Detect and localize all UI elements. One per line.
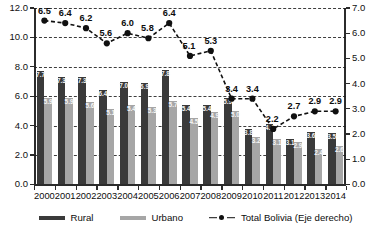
right-axis-tick (346, 33, 350, 34)
legend-swatch-urbano-icon (120, 216, 146, 220)
line-point-label: 5.1 (183, 42, 196, 51)
left-axis-tick-label: 12.0 (10, 3, 29, 13)
legend-label-urbano: Urbano (152, 213, 183, 223)
x-axis-label: 2010 (242, 192, 263, 201)
x-axis-label: 2013 (304, 192, 325, 201)
legend-swatch-line-icon (209, 215, 235, 221)
right-axis-tick-label: 0.0 (352, 179, 365, 189)
x-axis-label: 2012 (284, 192, 305, 201)
line-point-label: 6.0 (121, 19, 134, 28)
right-axis-tick (346, 159, 350, 160)
x-axis-tick (263, 186, 264, 190)
x-axis-label: 2011 (263, 192, 283, 201)
x-axis-tick (96, 186, 97, 190)
x-axis-tick (221, 186, 222, 190)
legend-item-urbano: Urbano (120, 213, 183, 223)
x-axis-label: 2006 (159, 192, 180, 201)
legend-item-rural: Rural (39, 213, 94, 223)
line-point-label: 6.4 (163, 9, 176, 18)
right-axis-tick-label: 5.0 (352, 53, 365, 63)
left-axis-tick-label: 8.0 (15, 62, 28, 72)
line-point-label: 3.4 (225, 85, 238, 94)
x-axis-tick (55, 186, 56, 190)
x-axis-label: 2002 (76, 192, 97, 201)
x-axis-tick (200, 186, 201, 190)
left-axis-tick-label: 0.0 (15, 179, 28, 189)
x-axis-label: 2005 (138, 192, 159, 201)
line-point-label: 6.5 (38, 6, 51, 15)
x-axis-labels: 2000200120022003200420052006200720082009… (34, 192, 346, 208)
line-point-label: 5.8 (141, 24, 154, 33)
left-axis-tick-label: 4.0 (15, 121, 28, 131)
x-axis-tick (34, 186, 35, 190)
x-axis-label: 2008 (200, 192, 221, 201)
line-point-label: 3.4 (246, 85, 259, 94)
right-axis-tick-label: 4.0 (352, 79, 365, 89)
x-axis-label: 2001 (55, 192, 76, 201)
left-axis-tick-label: 2.0 (15, 150, 28, 160)
right-axis-tick-label: 6.0 (352, 28, 365, 38)
x-axis-tick (138, 186, 139, 190)
x-axis-label: 2009 (221, 192, 242, 201)
legend-item-total-bolivia: Total Bolivia (Eje derecho) (209, 213, 352, 223)
legend-label-rural: Rural (71, 213, 94, 223)
right-axis-tick-label: 2.0 (352, 129, 365, 139)
x-axis-tick (346, 186, 347, 190)
x-axis-label: 2014 (325, 192, 346, 201)
line-point-label: 6.2 (80, 14, 93, 23)
right-axis-tick-label: 1.0 (352, 154, 365, 164)
legend-label-total-bolivia: Total Bolivia (Eje derecho) (241, 213, 352, 223)
x-axis-tick (284, 186, 285, 190)
chart-legend: Rural Urbano Total Bolivia (Eje derecho) (0, 213, 391, 223)
line-point-label: 2.7 (288, 102, 301, 111)
x-axis-tick (325, 186, 326, 190)
x-axis-tick (117, 186, 118, 190)
x-axis-label: 2003 (96, 192, 117, 201)
line-series-group: 6.56.46.25.66.05.86.45.15.33.43.42.22.72… (34, 8, 346, 186)
x-axis-tick (242, 186, 243, 190)
left-axis-tick-label: 6.0 (15, 91, 28, 101)
right-axis-tick (346, 7, 350, 8)
x-axis-tick (304, 186, 305, 190)
total-bolivia-line (34, 8, 346, 186)
line-point-label: 2.9 (308, 97, 321, 106)
right-axis-tick (346, 108, 350, 109)
right-axis-tick (346, 133, 350, 134)
line-point-label: 5.3 (204, 37, 217, 46)
line-point-label: 2.2 (266, 115, 279, 124)
line-point-label: 2.9 (329, 97, 342, 106)
line-point-label: 5.6 (99, 29, 112, 38)
x-axis-tick (159, 186, 160, 190)
right-axis-tick (346, 184, 350, 185)
x-axis-label: 2000 (34, 192, 55, 201)
x-axis-tick (180, 186, 181, 190)
x-axis-tick (76, 186, 77, 190)
x-axis-label: 2004 (117, 192, 138, 201)
left-axis-tick-label: 10.0 (10, 32, 29, 42)
right-axis-tick-label: 7.0 (352, 3, 365, 13)
legend-swatch-rural-icon (39, 216, 65, 220)
line-point-label: 6.4 (59, 9, 72, 18)
x-axis-label: 2007 (180, 192, 201, 201)
right-axis-tick (346, 58, 350, 59)
chart-root: 0.02.04.06.08.010.012.0 0.01.02.03.04.05… (0, 0, 391, 248)
plot-area: 0.02.04.06.08.010.012.0 0.01.02.03.04.05… (34, 8, 346, 186)
right-axis-tick (346, 83, 350, 84)
right-axis-tick-label: 3.0 (352, 104, 365, 114)
